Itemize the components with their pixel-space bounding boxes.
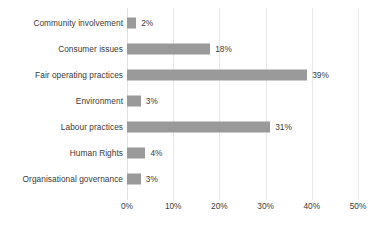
- plot-area: Community involvement2%Consumer issues18…: [127, 8, 358, 200]
- bar-row: Human Rights4%: [127, 140, 358, 166]
- bar[interactable]: [127, 18, 136, 29]
- x-tick-label: 20%: [211, 202, 228, 210]
- x-tick-label: 0%: [121, 202, 133, 210]
- category-label: Labour practices: [61, 123, 123, 131]
- bar-value-label: 31%: [275, 123, 292, 131]
- bar-value-label: 3%: [146, 175, 158, 183]
- bar[interactable]: [127, 70, 307, 81]
- bar-rows: Community involvement2%Consumer issues18…: [127, 8, 358, 200]
- category-label: Organisational governance: [23, 175, 123, 183]
- bar-row: Fair operating practices39%: [127, 62, 358, 88]
- bar-chart: Community involvement2%Consumer issues18…: [0, 0, 384, 236]
- x-tick-label: 50%: [350, 202, 367, 210]
- bar-row: Community involvement2%: [127, 10, 358, 36]
- category-label: Consumer issues: [58, 45, 123, 53]
- category-label: Environment: [76, 97, 123, 105]
- bar[interactable]: [127, 96, 141, 107]
- bar-row: Environment3%: [127, 88, 358, 114]
- category-label: Fair operating practices: [35, 71, 123, 79]
- x-tick-label: 10%: [165, 202, 182, 210]
- bar[interactable]: [127, 44, 210, 55]
- bar-row: Organisational governance3%: [127, 166, 358, 192]
- x-axis-tick-labels: 0%10%20%30%40%50%: [127, 202, 358, 218]
- bar[interactable]: [127, 174, 141, 185]
- bar-value-label: 3%: [146, 97, 158, 105]
- bar-value-label: 18%: [215, 45, 232, 53]
- bar-row: Consumer issues18%: [127, 36, 358, 62]
- category-label: Community involvement: [33, 19, 123, 27]
- bar-value-label: 4%: [150, 149, 162, 157]
- bar[interactable]: [127, 148, 145, 159]
- bar[interactable]: [127, 122, 270, 133]
- bar-value-label: 2%: [141, 19, 153, 27]
- x-tick-label: 40%: [303, 202, 320, 210]
- x-tick-label: 30%: [257, 202, 274, 210]
- bar-value-label: 39%: [312, 71, 329, 79]
- category-label: Human Rights: [70, 149, 123, 157]
- bar-row: Labour practices31%: [127, 114, 358, 140]
- gridline-50pct: [358, 8, 359, 200]
